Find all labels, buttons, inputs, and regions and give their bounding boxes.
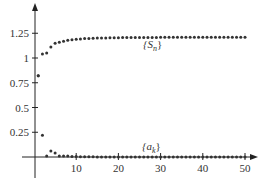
data-point (151, 156, 154, 159)
data-point (168, 156, 171, 159)
data-point (37, 74, 40, 77)
data-point (79, 155, 82, 158)
data-point (235, 36, 238, 39)
data-point (87, 155, 90, 158)
data-point (49, 150, 52, 153)
data-point (130, 36, 133, 39)
data-point (180, 36, 183, 39)
data-point (45, 52, 48, 55)
data-point (138, 36, 141, 39)
data-point (54, 42, 57, 45)
data-point (189, 156, 192, 159)
data-point (142, 156, 145, 159)
data-point (197, 156, 200, 159)
data-point (138, 156, 141, 159)
data-point (113, 36, 116, 39)
data-point (117, 156, 120, 159)
data-point (121, 156, 124, 159)
data-point (184, 36, 187, 39)
data-point (168, 36, 171, 39)
data-point (92, 37, 95, 40)
data-point (125, 156, 128, 159)
data-point (49, 46, 52, 49)
x-axis-arrow-icon (250, 154, 258, 160)
data-point (108, 36, 111, 39)
data-point (239, 156, 242, 159)
data-point (172, 156, 175, 159)
data-point (134, 156, 137, 159)
data-point (58, 41, 61, 44)
y-ticks: 0.250.50.7511.25 (10, 27, 38, 138)
x-tick-label: 10 (71, 162, 83, 174)
data-point (197, 36, 200, 39)
data-point (244, 36, 247, 39)
y-tick-label: 1 (24, 52, 30, 64)
data-point (134, 36, 137, 39)
data-point (218, 36, 221, 39)
data-point (130, 156, 133, 159)
data-point (206, 36, 209, 39)
data-point (227, 156, 230, 159)
data-point (227, 36, 230, 39)
data-point (70, 38, 73, 41)
data-point (244, 156, 247, 159)
data-point (184, 156, 187, 159)
y-axis-arrow-icon (32, 3, 38, 11)
data-point (125, 36, 128, 39)
data-point (75, 38, 78, 41)
data-point (92, 155, 95, 158)
data-point (239, 36, 242, 39)
data-point (210, 36, 213, 39)
data-point (163, 36, 166, 39)
data-point (218, 156, 221, 159)
data-point (163, 156, 166, 159)
data-point (235, 156, 238, 159)
y-tick-label: 0.25 (10, 126, 30, 138)
data-point (45, 155, 48, 158)
data-point (176, 156, 179, 159)
data-point (189, 36, 192, 39)
data-point (54, 152, 57, 155)
data-point (172, 36, 175, 39)
sequence-chart: 0.250.50.7511.25 1020304050 {Sn} {ak} (0, 0, 265, 185)
data-point (159, 156, 162, 159)
data-point (201, 156, 204, 159)
series-s-n-points (37, 36, 247, 78)
axes (22, 3, 258, 178)
data-point (104, 36, 107, 39)
data-point (117, 36, 120, 39)
data-point (96, 37, 99, 40)
data-point (70, 155, 73, 158)
data-point (66, 39, 69, 42)
y-tick-label: 0.75 (10, 77, 30, 89)
y-tick-label: 0.5 (15, 102, 29, 114)
x-tick-label: 50 (240, 162, 252, 174)
data-point (206, 156, 209, 159)
data-point (79, 37, 82, 40)
data-point (83, 37, 86, 40)
series-label-s-n: {Sn} (143, 38, 162, 53)
data-point (41, 53, 44, 56)
data-point (58, 155, 61, 158)
y-tick-label: 1.25 (10, 27, 30, 39)
data-point (222, 36, 225, 39)
data-point (108, 155, 111, 158)
data-point (214, 156, 217, 159)
data-point (41, 134, 44, 137)
data-point (146, 156, 149, 159)
data-point (214, 36, 217, 39)
data-point (231, 156, 234, 159)
data-point (201, 36, 204, 39)
data-point (193, 36, 196, 39)
data-point (180, 156, 183, 159)
data-point (66, 155, 69, 158)
data-point (62, 40, 65, 43)
series-label-a-k: {ak} (142, 140, 161, 155)
data-point (100, 155, 103, 158)
data-point (176, 36, 179, 39)
data-point (231, 36, 234, 39)
data-point (75, 155, 78, 158)
x-tick-label: 20 (113, 162, 125, 174)
data-point (113, 155, 116, 158)
data-point (222, 156, 225, 159)
